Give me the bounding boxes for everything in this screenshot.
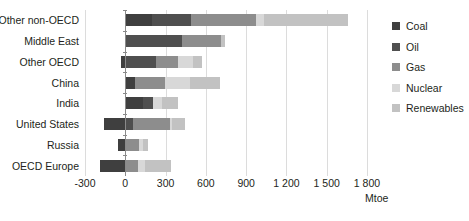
bar-segment-gas <box>191 14 256 26</box>
bar-segment-gas <box>125 160 138 172</box>
x-axis: -30003006009001 2001 5001 800 <box>85 178 367 194</box>
bar-track <box>85 97 367 109</box>
x-tick-label: 0 <box>122 178 128 189</box>
legend-label: Oil <box>406 42 419 53</box>
bar-segment-oil <box>125 56 156 68</box>
bar-row: Other non-OECD <box>85 10 367 31</box>
bar-segment-nuclear <box>178 56 193 68</box>
bar-segment-renewables <box>162 97 178 109</box>
bar-segment-nuclear <box>256 14 264 26</box>
gridline <box>367 10 368 176</box>
category-label: Middle East <box>24 36 79 47</box>
x-axis-title: Mtoe <box>365 193 388 204</box>
bar-segment-renewables <box>190 77 220 89</box>
bar-segment-gas <box>156 56 178 68</box>
axis-tick <box>123 135 127 136</box>
bar-segment-coal <box>125 77 135 89</box>
bar-row: United States <box>85 114 367 135</box>
bar-track <box>85 160 367 172</box>
x-tick-label: 600 <box>197 178 215 189</box>
category-label: China <box>52 77 79 88</box>
category-label: India <box>56 98 79 109</box>
category-label: Other OECD <box>19 57 79 68</box>
bar-segment-oil <box>125 35 181 47</box>
x-tick-label: 300 <box>157 178 175 189</box>
bar-segment-coal <box>100 160 126 172</box>
legend-label: Nuclear <box>406 83 442 94</box>
stacked-bar-chart: Other non-OECDMiddle EastOther OECDChina… <box>0 0 469 221</box>
bar-track <box>85 139 367 151</box>
legend-swatch-icon <box>392 84 400 92</box>
legend-label: Gas <box>406 62 425 73</box>
bar-segment-renewables <box>143 139 148 151</box>
axis-tick <box>123 10 127 11</box>
legend-swatch-icon <box>392 22 400 30</box>
x-tick-label: 1 800 <box>354 178 380 189</box>
axis-tick <box>123 114 127 115</box>
bar-segment-coal <box>118 139 125 151</box>
bar-segment-renewables <box>145 160 171 172</box>
bar-segment-oil <box>143 97 153 109</box>
legend-label: Renewables <box>406 103 464 114</box>
bar-segment-nuclear <box>153 97 162 109</box>
legend-item-renewables[interactable]: Renewables <box>392 98 467 119</box>
bar-track <box>85 77 367 89</box>
bar-segment-renewables <box>264 14 348 26</box>
category-label: Russia <box>47 140 79 151</box>
bar-segment-nuclear <box>165 77 190 89</box>
category-label: OECD Europe <box>12 160 79 171</box>
bar-track <box>85 14 367 26</box>
bar-segment-coal <box>104 118 125 130</box>
chart-legend: CoalOilGasNuclearRenewables <box>392 16 467 119</box>
bar-segment-gas <box>182 35 221 47</box>
bar-segment-gas <box>135 77 165 89</box>
bar-track <box>85 118 367 130</box>
axis-tick <box>123 72 127 73</box>
x-tick-label: -300 <box>74 178 95 189</box>
bar-row: Other OECD <box>85 52 367 73</box>
bar-rows: Other non-OECDMiddle EastOther OECDChina… <box>85 10 367 176</box>
x-tick-label: 1 200 <box>273 178 299 189</box>
bar-row: China <box>85 72 367 93</box>
bar-segment-oil <box>152 14 191 26</box>
bar-track <box>85 56 367 68</box>
bar-segment-gas <box>133 118 169 130</box>
bar-segment-gas <box>125 139 139 151</box>
axis-tick <box>123 93 127 94</box>
bar-segment-renewables <box>221 35 225 47</box>
bar-row: Middle East <box>85 31 367 52</box>
bar-segment-coal <box>125 97 143 109</box>
bar-segment-renewables <box>172 118 185 130</box>
bar-segment-renewables <box>193 56 202 68</box>
bar-segment-oil <box>125 118 133 130</box>
legend-item-gas[interactable]: Gas <box>392 57 467 78</box>
legend-item-coal[interactable]: Coal <box>392 16 467 37</box>
axis-tick <box>123 31 127 32</box>
category-label: Other non-OECD <box>0 15 79 26</box>
bar-track <box>85 35 367 47</box>
legend-swatch-icon <box>392 43 400 51</box>
bar-segment-nuclear <box>138 160 145 172</box>
bar-row: OECD Europe <box>85 155 367 176</box>
category-label: United States <box>16 119 79 130</box>
axis-tick <box>123 155 127 156</box>
bar-segment-coal <box>125 14 152 26</box>
legend-item-nuclear[interactable]: Nuclear <box>392 78 467 99</box>
legend-swatch-icon <box>392 63 400 71</box>
axis-tick <box>123 52 127 53</box>
plot-area: Other non-OECDMiddle EastOther OECDChina… <box>85 10 367 176</box>
bar-row: Russia <box>85 135 367 156</box>
legend-item-oil[interactable]: Oil <box>392 37 467 58</box>
legend-label: Coal <box>406 21 428 32</box>
x-tick-label: 1 500 <box>314 178 340 189</box>
x-tick-label: 900 <box>237 178 255 189</box>
bar-row: India <box>85 93 367 114</box>
legend-swatch-icon <box>392 104 400 112</box>
